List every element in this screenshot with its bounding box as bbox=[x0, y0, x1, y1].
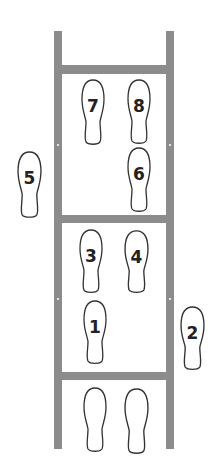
ladder-rail-right bbox=[166, 31, 174, 449]
footprint-step-5: 5 bbox=[17, 151, 42, 219]
ladder-rung-bottom bbox=[54, 372, 174, 380]
ladder-rung-middle bbox=[54, 215, 174, 223]
step-number: 2 bbox=[180, 323, 205, 343]
step-number: 7 bbox=[81, 96, 105, 116]
footprint-start-right bbox=[124, 388, 149, 455]
footprint-outline-icon bbox=[83, 387, 107, 453]
step-number: 3 bbox=[79, 246, 103, 266]
footprint-step-4: 4 bbox=[124, 230, 149, 294]
footprint-step-7: 7 bbox=[81, 79, 105, 146]
step-number: 1 bbox=[83, 317, 107, 337]
footprint-outline-icon bbox=[124, 388, 149, 455]
ladder-drill-diagram: 7 8 5 6 3 4 1 bbox=[0, 0, 219, 476]
footprint-start-left bbox=[83, 387, 107, 453]
step-number: 6 bbox=[127, 164, 151, 184]
step-number: 4 bbox=[124, 247, 149, 267]
footprint-step-1: 1 bbox=[83, 300, 107, 365]
step-number: 8 bbox=[127, 96, 151, 116]
rail-marker bbox=[169, 298, 171, 300]
footprint-step-2: 2 bbox=[180, 306, 205, 371]
rail-marker bbox=[57, 144, 59, 146]
rail-marker bbox=[169, 144, 171, 146]
footprint-step-3: 3 bbox=[79, 229, 103, 294]
footprint-step-6: 6 bbox=[127, 147, 151, 213]
rail-marker bbox=[57, 298, 59, 300]
step-number: 5 bbox=[17, 168, 42, 188]
ladder-rung-top bbox=[54, 65, 174, 74]
footprint-step-8: 8 bbox=[127, 79, 151, 145]
ladder-rail-left bbox=[54, 31, 62, 449]
